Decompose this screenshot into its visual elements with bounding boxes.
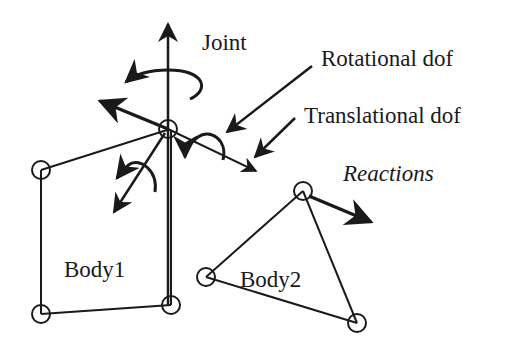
body1-shape [41,130,171,314]
rotational-dof-label: Rotational dof [321,47,453,70]
body1-label: Body1 [64,258,125,281]
translational-dof-label: Translational dof [304,104,461,127]
rotational-dof-pointer [227,66,312,132]
body2-shape [197,182,366,332]
reactions-label: Reactions [343,162,434,185]
body1-nodes [32,161,180,323]
leader-arrows [227,66,312,157]
body2-label: Body2 [240,268,301,291]
reaction-arrow [309,196,371,222]
translational-dof-pointer [255,118,295,157]
joint-label: Joint [202,31,247,54]
